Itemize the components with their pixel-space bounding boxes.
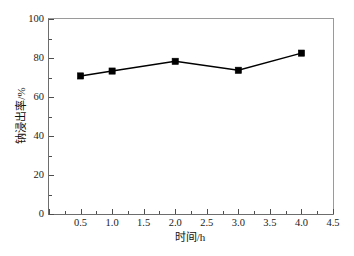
x-tick-label: 2.5: [200, 218, 213, 229]
x-tick-minor: [254, 211, 255, 214]
y-tick-minor: [49, 78, 52, 79]
x-tick-major: 0.5: [81, 209, 82, 214]
y-tick-major: 20: [49, 175, 54, 176]
x-tick-major: 1.0: [112, 209, 113, 214]
data-point-marker: [235, 67, 241, 73]
y-tick-major: 100: [49, 19, 54, 20]
x-tick-minor: [159, 211, 160, 214]
x-tick-label: 4.0: [295, 218, 308, 229]
data-point-marker: [109, 68, 115, 74]
x-tick-major: 3.5: [270, 209, 271, 214]
y-tick-label: 40: [34, 131, 45, 142]
y-tick-major: 80: [49, 58, 54, 59]
x-tick-major: 3.0: [238, 209, 239, 214]
x-tick-major: 2.0: [175, 209, 176, 214]
x-tick-minor: [286, 211, 287, 214]
y-tick-minor: [49, 39, 52, 40]
x-tick-label: 1.5: [137, 218, 150, 229]
data-series-layer: [49, 19, 333, 214]
chart-figure: 020406080100 0.51.01.52.02.53.03.54.04.5…: [0, 0, 354, 256]
x-tick-label: 2.0: [169, 218, 182, 229]
series-markers: [77, 50, 304, 79]
x-tick-major: 4.5: [333, 209, 334, 214]
x-tick-major: [49, 209, 50, 214]
y-tick-minor: [49, 156, 52, 157]
y-tick-major: 40: [49, 136, 54, 137]
data-point-marker: [298, 50, 304, 56]
data-point-marker: [172, 58, 178, 64]
y-tick-minor: [49, 117, 52, 118]
x-tick-label: 3.5: [263, 218, 276, 229]
y-tick-label: 80: [34, 53, 45, 64]
x-tick-minor: [128, 211, 129, 214]
x-tick-minor: [223, 211, 224, 214]
x-axis-title: 时间/h: [48, 232, 332, 243]
x-tick-label: 4.5: [326, 218, 339, 229]
data-point-marker: [77, 73, 83, 79]
x-tick-major: 1.5: [144, 209, 145, 214]
x-tick-minor: [96, 211, 97, 214]
x-tick-minor: [317, 211, 318, 214]
y-tick-minor: [49, 195, 52, 196]
x-tick-minor: [191, 211, 192, 214]
x-tick-label: 0.5: [74, 218, 87, 229]
y-tick-major: 0: [49, 214, 54, 215]
y-tick-label: 20: [34, 170, 45, 181]
y-tick-label: 100: [28, 14, 44, 25]
x-tick-label: 1.0: [106, 218, 119, 229]
y-tick-major: 60: [49, 97, 54, 98]
plot-area: 020406080100 0.51.01.52.02.53.03.54.04.5: [48, 18, 334, 215]
y-tick-label: 60: [34, 92, 45, 103]
x-tick-label: 3.0: [232, 218, 245, 229]
x-tick-major: 2.5: [207, 209, 208, 214]
x-tick-major: 4.0: [301, 209, 302, 214]
x-tick-minor: [65, 211, 66, 214]
y-tick-label: 0: [39, 209, 44, 220]
y-axis-title: 钠浸出率/%: [14, 18, 28, 213]
